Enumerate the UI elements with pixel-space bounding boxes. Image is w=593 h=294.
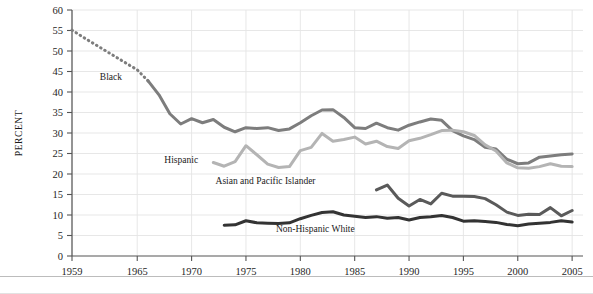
y-tick-label: 55 (53, 25, 64, 36)
y-tick-label: 25 (53, 148, 64, 159)
y-axis-title: PERCENT (14, 110, 24, 156)
series-label-hispanic: Hispanic (164, 155, 198, 165)
y-tick-label: 20 (53, 169, 64, 180)
y-tick-label: 45 (53, 66, 64, 77)
y-tick-label: 50 (53, 46, 64, 57)
chart-canvas: 0510152025303540455055601959196519701975… (0, 0, 593, 294)
y-tick-label: 0 (58, 251, 63, 262)
series-label-asian-and-pacific-islander: Asian and Pacific Islander (216, 176, 317, 186)
series-label-black: Black (100, 72, 122, 82)
y-tick-label: 5 (58, 230, 63, 241)
y-tick-label: 35 (53, 107, 64, 118)
poverty-rate-line-chart: 0510152025303540455055601959196519701975… (0, 0, 593, 294)
series-label-non-hispanic-white: Non-Hispanic White (276, 224, 355, 234)
y-tick-label: 30 (53, 128, 64, 139)
y-tick-label: 10 (53, 210, 64, 221)
y-tick-label: 60 (53, 5, 64, 16)
y-tick-label: 15 (53, 189, 64, 200)
footer-divider (0, 276, 593, 277)
y-tick-label: 40 (53, 87, 64, 98)
